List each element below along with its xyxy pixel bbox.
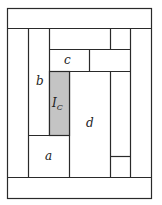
label-ic: IC — [52, 97, 63, 112]
label-a: a — [45, 150, 52, 162]
label-c: c — [64, 54, 71, 66]
label-ic-sub: C — [57, 103, 63, 112]
label-b: b — [36, 75, 44, 87]
label-d: d — [86, 117, 94, 129]
quilt-diagram — [0, 0, 162, 205]
